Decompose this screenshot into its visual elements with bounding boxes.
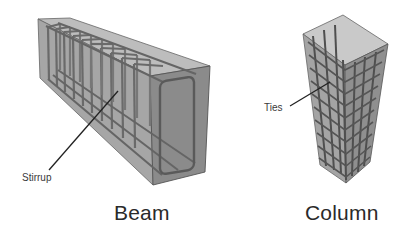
column-illustration — [303, 15, 388, 183]
beam-illustration — [38, 18, 210, 185]
ties-label: Ties — [264, 102, 283, 113]
column-title: Column — [305, 201, 379, 225]
reinforcement-diagram: Stirrup Ties Beam Column — [0, 0, 410, 241]
stirrup-label: Stirrup — [22, 172, 51, 183]
beam-title: Beam — [114, 201, 170, 225]
